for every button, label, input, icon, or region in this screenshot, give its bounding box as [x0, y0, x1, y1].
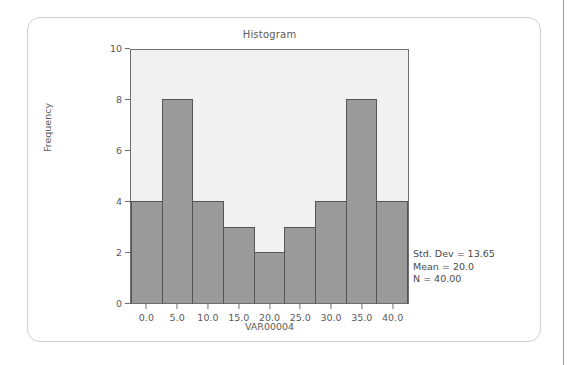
bar-series	[131, 50, 408, 303]
y-axis-tick-mark	[125, 150, 130, 151]
histogram-bar	[376, 201, 408, 303]
page-background: Histogram Frequency 0246810 0.05.010.015…	[0, 0, 579, 365]
x-axis-tick-mark	[269, 304, 270, 309]
x-axis-tick-mark	[331, 304, 332, 309]
x-axis-tick-mark	[146, 304, 147, 309]
y-axis-tick-label: 10	[110, 43, 122, 54]
y-axis-title: Frequency	[42, 73, 53, 183]
histogram-bar	[315, 201, 347, 303]
x-axis-title: VAR00004	[130, 321, 409, 332]
stat-std-dev: Std. Dev = 13.65	[413, 248, 495, 261]
histogram-bar	[162, 99, 194, 303]
stat-mean: Mean = 20.0	[413, 261, 495, 274]
page-edge-rule	[563, 0, 564, 365]
histogram-bar	[192, 201, 224, 303]
histogram-chart: Histogram Frequency 0246810 0.05.010.015…	[28, 18, 542, 343]
x-axis-tick-mark	[300, 304, 301, 309]
histogram-bar	[131, 201, 163, 303]
y-axis-tick-label: 8	[116, 94, 122, 105]
y-axis-tick-mark	[125, 303, 130, 304]
histogram-bar	[254, 252, 286, 303]
plot-area: 0246810 0.05.010.015.020.025.030.035.040…	[130, 49, 409, 304]
histogram-bar	[284, 227, 316, 304]
x-axis-tick-mark	[392, 304, 393, 309]
histogram-bar	[346, 99, 378, 303]
y-axis-tick-mark	[125, 48, 130, 49]
histogram-bar	[223, 227, 255, 304]
chart-title: Histogram	[130, 29, 409, 40]
y-axis-tick-label: 6	[116, 145, 122, 156]
x-axis-tick-mark	[361, 304, 362, 309]
histogram-card: Histogram Frequency 0246810 0.05.010.015…	[27, 17, 541, 342]
y-axis-tick-mark	[125, 201, 130, 202]
x-axis-tick-mark	[238, 304, 239, 309]
y-axis-tick-label: 4	[116, 196, 122, 207]
stat-n: N = 40.00	[413, 273, 495, 286]
y-axis-tick-label: 0	[116, 298, 122, 309]
statistics-annotation: Std. Dev = 13.65 Mean = 20.0 N = 40.00	[413, 248, 495, 286]
y-axis-tick-mark	[125, 252, 130, 253]
plot-inner: 0246810 0.05.010.015.020.025.030.035.040…	[131, 50, 408, 303]
y-axis-tick-mark	[125, 99, 130, 100]
y-axis-tick-label: 2	[116, 247, 122, 258]
x-axis-tick-mark	[207, 304, 208, 309]
x-axis-tick-mark	[177, 304, 178, 309]
